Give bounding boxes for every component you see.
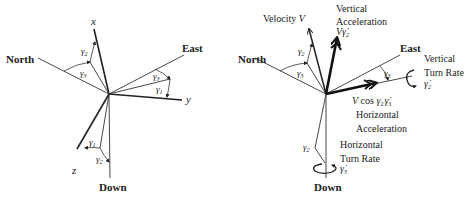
diagram-canvas: North East Down x y z γ2 γ3 γ3 γ1 γ1 γ2 bbox=[0, 0, 475, 200]
gamma3-label-north: γ3 bbox=[297, 68, 304, 79]
down-label: Down bbox=[99, 181, 127, 193]
gamma3-label-east: γ3 bbox=[384, 68, 391, 79]
east-axis-line bbox=[109, 55, 184, 94]
y-axis-label: y bbox=[185, 93, 191, 105]
z-axis-label: z bbox=[71, 164, 77, 176]
down-label: Down bbox=[314, 181, 342, 193]
x-axis-label: x bbox=[90, 15, 96, 27]
gamma1-label-down: γ1 bbox=[89, 137, 96, 148]
horizontal-acceleration-arrow bbox=[326, 83, 376, 94]
gamma1-label-east: γ1 bbox=[156, 84, 163, 95]
horizontal-acceleration-label-line1: Horizontal bbox=[356, 109, 399, 120]
y-axis-line bbox=[109, 94, 182, 100]
horizontal-turn-rate-label-line2: Turn Rate bbox=[340, 153, 380, 164]
horizontal-acceleration-expression: V cos γ2γ̇3 bbox=[352, 95, 391, 107]
down-axis-line bbox=[109, 94, 110, 178]
north-label: North bbox=[238, 53, 266, 65]
horizontal-turn-rate-expression: γ̇3 bbox=[340, 163, 347, 175]
gamma2-label-north: γ2 bbox=[298, 46, 305, 57]
velocity-label: Velocity V bbox=[263, 13, 307, 24]
gamma3-label-north: γ3 bbox=[80, 68, 87, 79]
vertical-acceleration-label-line1: Vertical bbox=[336, 3, 367, 14]
right-frame-diagram: North East Down Velocity V Vertical Acce… bbox=[238, 3, 464, 193]
gamma3-arc-north bbox=[280, 63, 307, 71]
north-label: North bbox=[6, 53, 34, 65]
vertical-turn-rate-rotation-icon bbox=[407, 70, 416, 86]
vertical-turn-rate-expression: γ̇2 bbox=[424, 78, 431, 90]
east-label: East bbox=[182, 42, 203, 54]
vertical-acceleration-expression: Vγ̇2 bbox=[336, 26, 349, 38]
gamma2-label-north: γ2 bbox=[81, 46, 88, 57]
gamma1-arc-east bbox=[167, 79, 170, 97]
horizontal-turn-rate-rotation-icon bbox=[314, 164, 336, 173]
vertical-turn-rate-label-line2: Turn Rate bbox=[424, 67, 464, 78]
left-frame-diagram: North East Down x y z γ2 γ3 γ3 γ1 γ1 γ2 bbox=[6, 15, 203, 193]
intermediate-line-down bbox=[315, 94, 326, 148]
east-label: East bbox=[400, 42, 421, 54]
gamma2-arc-north bbox=[307, 44, 312, 63]
intermediate-line-down-2 bbox=[315, 148, 325, 163]
gamma2-label-down: γ2 bbox=[303, 142, 310, 153]
horizontal-turn-rate-label-line1: Horizontal bbox=[340, 139, 383, 150]
gamma3-label-east: γ3 bbox=[153, 71, 160, 82]
velocity-arrow bbox=[309, 29, 326, 94]
gamma2-label-down: γ2 bbox=[96, 154, 103, 165]
horizontal-acceleration-label-line2: Acceleration bbox=[356, 123, 407, 134]
x-axis-line bbox=[94, 29, 109, 94]
vertical-turn-rate-label-line1: Vertical bbox=[424, 53, 455, 64]
gamma2-arc-north bbox=[90, 42, 95, 62]
gamma3-arc-north bbox=[64, 62, 90, 71]
